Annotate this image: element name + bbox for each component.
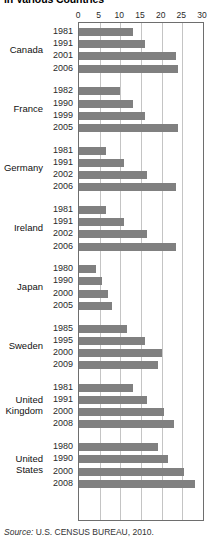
bar-row bbox=[79, 87, 203, 95]
bars-layer bbox=[79, 23, 203, 520]
bar-row bbox=[79, 265, 203, 273]
bar-row bbox=[79, 384, 203, 392]
bar bbox=[79, 455, 168, 463]
country-label-line: Japan bbox=[17, 281, 43, 292]
bar-row bbox=[79, 361, 203, 369]
country-label-line: Ireland bbox=[14, 222, 43, 233]
bar bbox=[79, 361, 158, 369]
bar bbox=[79, 183, 176, 191]
page-title: in Various Countries bbox=[4, 0, 104, 5]
bar bbox=[79, 100, 133, 108]
country-label-line: United bbox=[6, 394, 44, 405]
bar bbox=[79, 147, 106, 155]
year-label: 2000 bbox=[53, 347, 73, 357]
x-axis-tick-5: 5 bbox=[96, 10, 101, 21]
year-label: 1991 bbox=[53, 216, 73, 226]
chart-figure: in Various Countries 051015202530 198119… bbox=[0, 0, 211, 544]
bar-row bbox=[79, 230, 203, 238]
year-label: 2006 bbox=[53, 181, 73, 191]
country-label-line: United bbox=[16, 453, 43, 464]
bar-row bbox=[79, 171, 203, 179]
bar bbox=[79, 40, 145, 48]
year-label: 2001 bbox=[53, 50, 73, 60]
bar-row bbox=[79, 349, 203, 357]
year-label: 1980 bbox=[53, 263, 73, 273]
year-label: 1991 bbox=[53, 157, 73, 167]
source-note: Source: U.S. CENSUS BUREAU, 2010. bbox=[4, 527, 154, 538]
bar-row bbox=[79, 183, 203, 191]
bar bbox=[79, 87, 120, 95]
year-label: 2005 bbox=[53, 300, 73, 310]
bar-row bbox=[79, 325, 203, 333]
bar bbox=[79, 384, 133, 392]
year-label: 1981 bbox=[53, 382, 73, 392]
bar-row bbox=[79, 147, 203, 155]
category-axis-labels: 1981199120012006Canada1982199019992005Fr… bbox=[0, 22, 76, 519]
year-label: 1990 bbox=[53, 275, 73, 285]
bar bbox=[79, 159, 124, 167]
bar-row bbox=[79, 159, 203, 167]
bar-row bbox=[79, 40, 203, 48]
country-label-sweden: Sweden bbox=[9, 340, 43, 351]
x-axis-tick-10: 10 bbox=[115, 10, 124, 21]
country-label-line: Sweden bbox=[9, 340, 43, 351]
year-label: 2002 bbox=[53, 228, 73, 238]
bar-row bbox=[79, 455, 203, 463]
bar-row bbox=[79, 124, 203, 132]
bar bbox=[79, 218, 124, 226]
bar-row bbox=[79, 52, 203, 60]
bar-row bbox=[79, 420, 203, 428]
x-axis-tick-20: 20 bbox=[156, 10, 165, 21]
country-label-line: States bbox=[16, 464, 43, 475]
year-label: 2008 bbox=[53, 478, 73, 488]
country-label-ireland: Ireland bbox=[14, 222, 43, 233]
bar bbox=[79, 325, 127, 333]
country-label-germany: Germany bbox=[4, 162, 43, 173]
bar bbox=[79, 408, 164, 416]
x-axis-tick-0: 0 bbox=[76, 10, 81, 21]
country-label-line: Germany bbox=[4, 162, 43, 173]
bar-row bbox=[79, 112, 203, 120]
bar bbox=[79, 52, 176, 60]
bar-row bbox=[79, 480, 203, 488]
bar-row bbox=[79, 100, 203, 108]
bar-row bbox=[79, 408, 203, 416]
bar bbox=[79, 265, 96, 273]
country-label-japan: Japan bbox=[17, 281, 43, 292]
year-label: 1990 bbox=[53, 453, 73, 463]
year-label: 2006 bbox=[53, 63, 73, 73]
x-axis-tick-labels: 051015202530 bbox=[0, 10, 211, 21]
year-label: 1981 bbox=[53, 145, 73, 155]
bar bbox=[79, 443, 158, 451]
bar bbox=[79, 290, 108, 298]
bar-row bbox=[79, 396, 203, 404]
x-axis-tick-25: 25 bbox=[177, 10, 186, 21]
bar bbox=[79, 277, 102, 285]
bar-row bbox=[79, 218, 203, 226]
year-label: 1982 bbox=[53, 85, 73, 95]
year-label: 1991 bbox=[53, 394, 73, 404]
bar-row bbox=[79, 277, 203, 285]
bar bbox=[79, 302, 112, 310]
bar bbox=[79, 349, 162, 357]
source-prefix: Source: bbox=[4, 527, 33, 537]
year-label: 1985 bbox=[53, 323, 73, 333]
bar-row bbox=[79, 206, 203, 214]
year-label: 2008 bbox=[53, 418, 73, 428]
x-axis-tick-30: 30 bbox=[197, 10, 206, 21]
bar-row bbox=[79, 302, 203, 310]
bar bbox=[79, 243, 176, 251]
x-axis-tick-15: 15 bbox=[135, 10, 144, 21]
country-label-line: Kingdom bbox=[6, 405, 44, 416]
bar-row bbox=[79, 443, 203, 451]
bar bbox=[79, 480, 195, 488]
country-label-united-kingdom: UnitedKingdom bbox=[6, 394, 44, 416]
year-label: 1999 bbox=[53, 110, 73, 120]
bar bbox=[79, 124, 178, 132]
year-label: 1995 bbox=[53, 335, 73, 345]
bar bbox=[79, 112, 145, 120]
source-text: U.S. CENSUS BUREAU, 2010. bbox=[33, 527, 153, 537]
bar-row bbox=[79, 468, 203, 476]
bar bbox=[79, 206, 106, 214]
year-label: 2005 bbox=[53, 122, 73, 132]
